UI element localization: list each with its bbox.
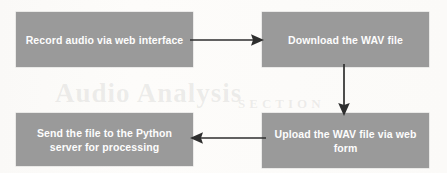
flow-node-label: Send the file to the Python server for p… (22, 126, 187, 154)
flow-node-send-to-python-server: Send the file to the Python server for p… (16, 113, 193, 166)
flow-node-record-audio: Record audio via web interface (16, 12, 193, 67)
flow-node-label: Upload the WAV file via web form (268, 127, 423, 155)
diagram-canvas: Audio Analysis CHAPTER SECTION Record au… (0, 0, 447, 173)
flow-node-upload-wav: Upload the WAV file via web form (262, 113, 429, 168)
scan-ghost-text-1: Audio Analysis (55, 78, 242, 109)
arrow-left-icon (188, 126, 266, 150)
scan-ghost-text-3: SECTION (238, 96, 325, 112)
arrow-right-icon (190, 28, 266, 52)
flow-node-label: Download the WAV file (268, 33, 423, 47)
flow-node-download-wav: Download the WAV file (262, 12, 429, 67)
flow-node-label: Record audio via web interface (22, 33, 187, 47)
arrow-down-icon (330, 64, 358, 118)
